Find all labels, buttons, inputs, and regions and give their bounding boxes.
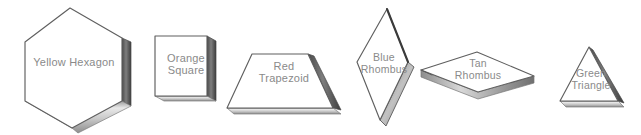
triangle-top-face <box>560 47 618 101</box>
blocks-drawing <box>0 0 641 135</box>
block-tan-rhombus <box>421 52 534 99</box>
block-yellow-hexagon <box>25 8 131 133</box>
block-orange-square <box>155 36 216 101</box>
blue-rhombus-top-face <box>357 9 408 120</box>
block-green-triangle <box>560 47 624 107</box>
triangle-bottom-band <box>560 101 624 107</box>
block-red-trapezoid <box>227 54 341 114</box>
square-side-face <box>207 36 216 101</box>
hexagon-side-face <box>122 38 131 106</box>
square-top-face <box>155 36 207 96</box>
pattern-blocks-illustration: Yellow Hexagon Orange Square Red Trapezo… <box>0 0 641 135</box>
trapezoid-bottom-band <box>227 108 341 114</box>
block-blue-rhombus <box>357 9 414 126</box>
square-bottom-band <box>155 96 216 101</box>
